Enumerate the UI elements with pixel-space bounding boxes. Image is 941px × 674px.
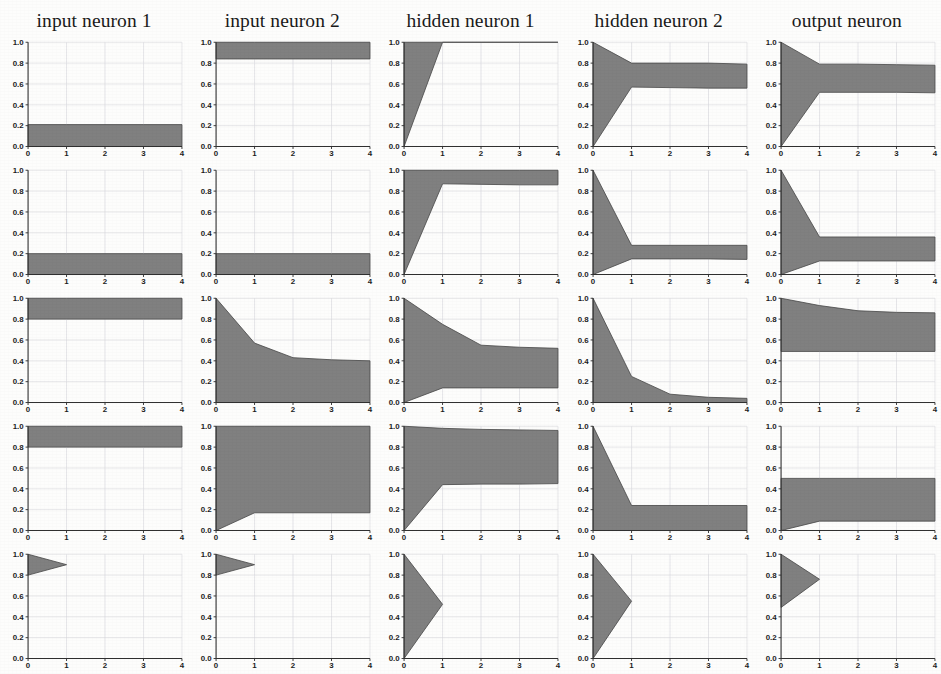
y-tick-label: 0.6 [766,208,778,217]
plot-area: 0.00.20.40.60.81.001234 [376,290,564,418]
y-tick-label: 0.8 [389,571,401,580]
x-tick-label: 1 [629,661,634,670]
x-tick-label: 3 [894,405,899,414]
y-tick-label: 0.8 [766,443,778,452]
y-tick-label: 0.2 [766,121,778,130]
y-tick-label: 0.8 [389,443,401,452]
y-tick-label: 0.8 [13,59,25,68]
x-tick-label: 3 [329,149,334,158]
activation-band [28,426,182,447]
y-tick-label: 0.0 [201,654,213,663]
y-tick-label: 0.6 [13,208,25,217]
plot-wrapper: 0.00.20.40.60.81.001234 [753,418,941,546]
y-tick-label: 0.0 [389,270,401,279]
plot-wrapper: 0.00.20.40.60.81.001234 [0,34,188,162]
y-tick-label: 0.2 [13,249,25,258]
plot-area: 0.00.20.40.60.81.001234 [565,290,753,418]
y-tick-label: 0.2 [577,121,589,130]
y-tick-label: 0.2 [766,505,778,514]
x-tick-label: 2 [667,277,672,286]
x-tick-label: 0 [590,149,595,158]
y-tick-label: 0.0 [577,398,589,407]
x-tick-label: 4 [368,661,373,670]
x-tick-label: 2 [479,277,484,286]
x-tick-label: 1 [253,533,258,542]
x-tick-label: 0 [214,661,219,670]
subplot-r5-c1: 0.00.20.40.60.81.001234 [0,546,188,674]
y-tick-label: 0.6 [766,336,778,345]
x-tick-label: 0 [779,405,784,414]
x-tick-label: 2 [667,149,672,158]
y-tick-label: 0.2 [201,633,213,642]
y-tick-label: 0.2 [389,633,401,642]
x-tick-label: 2 [479,533,484,542]
x-tick-label: 1 [817,661,822,670]
x-tick-label: 4 [744,661,749,670]
y-tick-label: 1.0 [389,38,401,47]
y-tick-label: 1.0 [766,294,778,303]
y-tick-label: 1.0 [389,422,401,431]
x-tick-label: 0 [590,277,595,286]
plot-area: 0.00.20.40.60.81.001234 [188,162,376,290]
y-tick-label: 1.0 [201,38,213,47]
y-tick-label: 0.4 [577,613,589,622]
x-tick-label: 2 [291,149,296,158]
x-tick-label: 0 [214,149,219,158]
y-tick-label: 0.8 [766,571,778,580]
plot-area: 0.00.20.40.60.81.001234 [0,290,188,418]
activation-band [28,125,182,147]
y-tick-label: 0.2 [13,377,25,386]
y-tick-label: 0.4 [577,229,589,238]
plot-area: 0.00.20.40.60.81.001234 [0,34,188,162]
x-tick-label: 0 [779,533,784,542]
x-tick-label: 3 [894,661,899,670]
plot-area: 0.00.20.40.60.81.001234 [565,34,753,162]
y-tick-label: 0.4 [201,357,213,366]
y-tick-label: 0.0 [389,142,401,151]
x-tick-label: 0 [26,277,31,286]
y-tick-label: 0.6 [389,208,401,217]
y-tick-label: 0.4 [13,485,25,494]
column-title-output-neuron: output neuron [753,10,941,34]
x-tick-label: 3 [329,277,334,286]
x-tick-label: 2 [667,405,672,414]
y-tick-label: 0.4 [766,357,778,366]
x-tick-label: 2 [856,661,861,670]
y-tick-label: 0.6 [766,592,778,601]
plot-wrapper: 0.00.20.40.60.81.001234 [753,290,941,418]
subplot-r1-c5: 0.00.20.40.60.81.001234 [753,34,941,162]
x-tick-label: 0 [779,149,784,158]
x-tick-label: 3 [706,277,711,286]
y-tick-label: 1.0 [13,166,25,175]
y-tick-label: 0.8 [201,187,213,196]
x-tick-label: 3 [518,533,523,542]
x-tick-label: 3 [706,149,711,158]
subplot-r3-c5: 0.00.20.40.60.81.001234 [753,290,941,418]
y-tick-label: 0.6 [577,592,589,601]
subplot-r5-c4: 0.00.20.40.60.81.001234 [565,546,753,674]
x-tick-label: 1 [64,405,69,414]
y-tick-label: 0.4 [766,101,778,110]
subplot-r3-c4: 0.00.20.40.60.81.001234 [565,290,753,418]
y-tick-label: 0.2 [13,633,25,642]
y-tick-label: 0.8 [389,59,401,68]
y-tick-label: 0.6 [389,464,401,473]
subplot-grid: input neuron 1 input neuron 2 hidden neu… [0,0,941,674]
y-tick-label: 0.8 [766,59,778,68]
y-tick-label: 0.8 [201,315,213,324]
x-tick-label: 4 [744,533,749,542]
subplot-r2-c5: 0.00.20.40.60.81.001234 [753,162,941,290]
y-tick-label: 0.2 [201,121,213,130]
x-tick-label: 3 [518,149,523,158]
y-tick-label: 0.6 [577,336,589,345]
y-tick-label: 0.4 [389,101,401,110]
x-tick-label: 2 [103,533,108,542]
plot-area: 0.00.20.40.60.81.001234 [0,418,188,546]
x-tick-label: 3 [518,405,523,414]
x-tick-label: 1 [817,533,822,542]
y-tick-label: 0.6 [201,336,213,345]
plot-wrapper: 0.00.20.40.60.81.001234 [0,546,188,674]
x-tick-label: 3 [141,661,146,670]
y-tick-label: 0.0 [389,398,401,407]
plot-area: 0.00.20.40.60.81.001234 [376,162,564,290]
